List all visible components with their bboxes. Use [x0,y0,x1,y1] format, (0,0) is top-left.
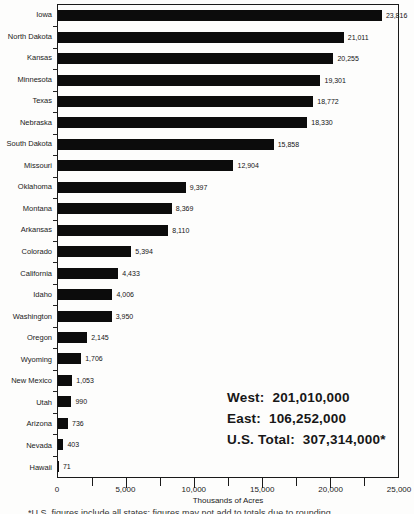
bar-value-label: 4,006 [116,291,134,298]
state-label: Washington [0,306,52,328]
bar [58,203,172,214]
bar-value-label: 71 [63,463,71,470]
state-label: Kansas [0,47,52,69]
bar [58,268,118,279]
bar-value-label: 1,053 [76,377,94,384]
y-axis-tick [53,456,58,457]
bar-row: 71 [58,456,398,477]
bar-value-label: 4,433 [122,270,140,277]
bar [58,396,71,407]
y-axis-tick [53,327,58,328]
east-total: East: 106,252,000 [227,411,346,426]
y-axis-tick [53,198,58,199]
summary-annotation: West: 201,010,000 East: 106,252,000 U.S.… [227,387,386,450]
state-label: Missouri [0,155,52,177]
bar [58,117,307,128]
clipped-footnote: *U.S. figures include all states; figure… [28,508,412,514]
bar-row: 18,330 [58,112,398,133]
x-axis-tick-labels: 05,00010,00015,00020,00025,000 [57,485,399,495]
bar [58,182,186,193]
x-axis-tick-label: 0 [55,485,59,494]
y-axis-tick [53,413,58,414]
x-axis-tick-label: 25,000 [387,485,411,494]
bar-value-label: 3,950 [116,313,134,320]
bar [58,225,168,236]
state-label: Texas [0,90,52,112]
bar-value-label: 15,858 [278,141,299,148]
state-label: Hawaii [0,456,52,478]
x-axis-tick-label: 15,000 [250,485,274,494]
bar-row: 4,006 [58,284,398,305]
bar-value-label: 990 [75,398,87,405]
state-label: Idaho [0,284,52,306]
y-axis-tick [53,434,58,435]
bar [58,289,112,300]
bar-value-label: 12,904 [237,162,258,169]
bar-row: 2,145 [58,327,398,348]
y-axis-tick [53,370,58,371]
state-label: Oregon [0,327,52,349]
bar-value-label: 8,110 [172,227,189,234]
bar [58,96,313,107]
x-axis-tick-label: 5,000 [115,485,135,494]
state-label: Nevada [0,435,52,457]
x-axis-tick-label: 10,000 [182,485,206,494]
y-axis-state-labels: IowaNorth DakotaKansasMinnesotaTexasNebr… [0,4,52,478]
state-label: North Dakota [0,26,52,48]
y-axis-tick [53,391,58,392]
bar-row: 8,110 [58,220,398,241]
bar [58,160,233,171]
y-axis-tick [53,305,58,306]
west-total: West: 201,010,000 [227,390,350,405]
y-axis-tick [53,155,58,156]
bar-row: 23,816 [58,5,398,26]
y-axis-tick [53,348,58,349]
y-axis-tick [53,262,58,263]
bar-row: 19,301 [58,69,398,90]
bar-row: 4,433 [58,262,398,283]
bar-value-label: 1,706 [85,355,103,362]
bar-chart-figure: IowaNorth DakotaKansasMinnesotaTexasNebr… [0,0,414,514]
bar [58,332,87,343]
bar-value-label: 5,394 [135,248,153,255]
bar-value-label: 18,772 [317,98,338,105]
bar [58,311,112,322]
bar [58,353,81,364]
bar-value-label: 403 [67,441,79,448]
y-axis-tick [53,220,58,221]
bar [58,418,68,429]
state-label: Nebraska [0,112,52,134]
y-axis-tick [53,112,58,113]
y-axis-tick [53,26,58,27]
bar [58,461,59,472]
state-label: New Mexico [0,370,52,392]
bar-value-label: 2,145 [91,334,109,341]
bar [58,439,63,450]
bar-row: 21,011 [58,26,398,47]
y-axis-tick [53,241,58,242]
y-axis-tick [53,177,58,178]
bar-value-label: 21,011 [348,34,369,41]
bar-row: 8,369 [58,198,398,219]
bar-row: 12,904 [58,155,398,176]
bar [58,139,274,150]
bar-value-label: 20,255 [337,55,358,62]
bar-row: 9,397 [58,177,398,198]
y-axis-tick [53,48,58,49]
state-label: Montana [0,198,52,220]
x-axis-title: Thousands of Acres [57,496,399,505]
bar [58,75,320,86]
bar-row: 20,255 [58,48,398,69]
bar-row: 5,394 [58,241,398,262]
y-axis-tick [53,134,58,135]
bar-row: 15,858 [58,134,398,155]
state-label: Colorado [0,241,52,263]
bar-value-label: 736 [72,420,84,427]
us-total: U.S. Total: 307,314,000* [227,432,386,447]
bar-value-label: 19,301 [324,77,345,84]
y-axis-tick [53,91,58,92]
state-label: Wyoming [0,349,52,371]
bar [58,53,333,64]
bar-value-label: 8,369 [176,205,194,212]
bar-value-label: 9,397 [190,184,208,191]
